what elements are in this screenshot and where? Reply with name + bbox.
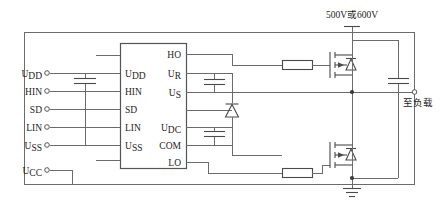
node-switch — [350, 90, 354, 94]
schematic-canvas: UDD HIN SD LIN USS HO UR US UDC COM LO — [0, 0, 442, 208]
high-side-body-diode — [346, 59, 356, 70]
low-side-mosfet-bulk-arrow — [338, 152, 344, 158]
terminal-hin[interactable] — [45, 89, 50, 94]
wire-ho-to-gate — [186, 54, 282, 65]
terminal-sd[interactable] — [45, 107, 50, 112]
terminal-label-uss: USS — [25, 141, 42, 153]
high-side-mosfet-bulk-arrow — [338, 62, 344, 68]
ic-pin-ho-label: HO — [167, 50, 181, 60]
terminal-udd[interactable] — [45, 71, 50, 76]
high-side-gate-resistor — [283, 61, 313, 70]
terminal-label-sd: SD — [30, 105, 42, 115]
ic-pin-lin-label: LIN — [125, 123, 141, 133]
terminal-lin[interactable] — [45, 125, 50, 130]
terminal-label-ucc: UCC — [22, 166, 42, 178]
wire-com — [186, 145, 282, 155]
terminal-label-lin: LIN — [26, 123, 42, 133]
terminal-ucc[interactable] — [45, 168, 50, 173]
terminal-label-hin: HIN — [25, 87, 42, 97]
wire-lo-to-gate — [186, 162, 282, 173]
ic-pin-com-label: COM — [159, 141, 181, 151]
load-label: 至负载 — [403, 97, 433, 108]
terminal-load-output[interactable] — [412, 90, 417, 95]
wire-ls-resistor-to-gate — [312, 165, 330, 173]
bootstrap-diode-triangle — [226, 105, 239, 118]
ic-pin-lo-label: LO — [168, 158, 181, 168]
dc-bus-voltage-label: 500V或600V — [326, 9, 378, 20]
terminal-uss[interactable] — [45, 143, 50, 148]
node-ground-return — [350, 176, 354, 180]
ic-pin-sd-label: SD — [125, 105, 137, 115]
low-side-body-diode — [346, 149, 356, 160]
ic-pin-hin-label: HIN — [125, 87, 142, 97]
low-side-mosfet — [330, 92, 356, 178]
low-side-gate-resistor — [283, 169, 313, 178]
high-side-mosfet — [330, 40, 356, 92]
circuit-diagram: UDD HIN SD LIN USS HO UR US UDC COM LO — [0, 0, 442, 208]
wire-ucc-input — [50, 170, 72, 184]
